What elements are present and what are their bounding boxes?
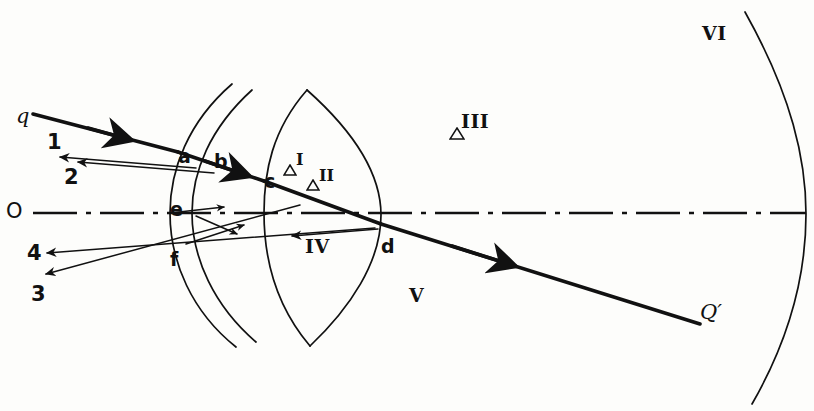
exit-ray-label-q-prime: Q′ bbox=[700, 302, 722, 323]
cornea-arcs bbox=[170, 84, 256, 347]
region-label-V: V bbox=[409, 286, 424, 305]
lens-posterior-arc bbox=[307, 90, 381, 346]
axis-origin-label: O bbox=[6, 201, 23, 222]
retina-arc bbox=[745, 12, 806, 404]
reflected-rays-upper bbox=[60, 157, 214, 173]
region-label-IV: IV bbox=[305, 237, 330, 256]
lens-anterior-arc bbox=[264, 90, 310, 346]
region-label-II: II bbox=[319, 168, 334, 184]
triangle-marker-I bbox=[284, 165, 296, 175]
reflected-ray-label-3: 3 bbox=[31, 284, 46, 305]
reflected-ray-label-2: 2 bbox=[64, 167, 79, 188]
diagram-canvas bbox=[0, 0, 814, 411]
surface-point-b: b bbox=[214, 152, 228, 171]
incident-ray-label-q: q bbox=[16, 106, 29, 127]
optical-ray-diagram: O q Q′ a b c d e f 1 2 4 3 I II III IV V… bbox=[0, 0, 814, 411]
surface-point-d: d bbox=[381, 237, 395, 256]
region-label-III: III bbox=[461, 112, 489, 131]
surface-point-c: c bbox=[264, 172, 275, 191]
surface-point-e: e bbox=[170, 200, 183, 219]
region-label-VI: VI bbox=[702, 24, 727, 43]
reflected-ray-label-4: 4 bbox=[27, 243, 42, 264]
incident-ray-path bbox=[33, 114, 700, 324]
surface-point-a: a bbox=[178, 147, 191, 166]
triangle-marker-II bbox=[307, 180, 319, 190]
surface-point-f: f bbox=[170, 250, 178, 269]
cornea-posterior-arc bbox=[192, 90, 256, 342]
reflected-ray-label-1: 1 bbox=[47, 132, 62, 153]
region-label-I: I bbox=[296, 152, 303, 168]
